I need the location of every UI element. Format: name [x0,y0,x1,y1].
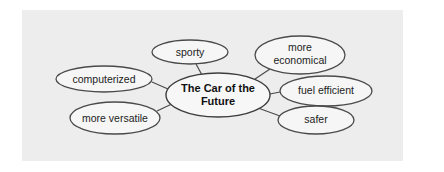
node-computerized: computerized [56,66,152,92]
edge-sporty [196,64,202,75]
node-more-versatile-label: more versatile [82,112,148,124]
node-sporty: sporty [152,40,228,64]
node-more-economical-label-line1: more [288,41,312,53]
edge-safer [258,108,280,116]
node-safer: safer [278,106,354,134]
edge-computerized [152,82,168,89]
concept-map: The Car of the Future sporty computerize… [0,0,444,172]
edge-more-economical [255,69,270,79]
node-more-versatile: more versatile [70,102,160,134]
node-computerized-label: computerized [72,73,135,85]
center-node-label-line1: The Car of the [181,82,255,94]
node-fuel-efficient-label: fuel efficient [298,84,354,96]
node-safer-label: safer [304,113,328,125]
node-fuel-efficient: fuel efficient [280,76,372,106]
center-node-label-line2: Future [201,95,235,107]
node-more-economical-label-line2: economical [273,54,326,66]
center-node: The Car of the Future [166,73,270,117]
node-more-economical: more economical [255,36,345,74]
edge-fuel-efficient [270,92,280,94]
node-sporty-label: sporty [176,46,205,58]
